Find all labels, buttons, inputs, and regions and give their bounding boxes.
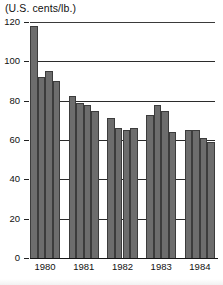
x-axis-tick-label: 1982 (112, 261, 133, 272)
y-axis-tick-mark (24, 101, 29, 102)
bar (69, 96, 77, 258)
y-axis-tick-label: 20 (0, 213, 20, 224)
bar (53, 81, 61, 258)
y-axis-tick-mark (24, 22, 29, 23)
bar (84, 105, 92, 258)
gridline (30, 61, 215, 62)
y-axis-tick-mark (24, 179, 29, 180)
x-axis-tick-label: 1980 (35, 261, 56, 272)
bar (192, 130, 200, 258)
bar (200, 138, 208, 258)
y-axis-tick-mark (24, 219, 29, 220)
bar (154, 105, 162, 258)
y-axis-tick-label: 40 (0, 173, 20, 184)
bar (123, 130, 131, 258)
bar (115, 128, 123, 258)
y-axis-tick-mark (24, 61, 29, 62)
y-axis-tick-mark (24, 140, 29, 141)
bar (91, 111, 99, 259)
bar (130, 128, 138, 258)
gridline (30, 22, 215, 23)
bar (38, 77, 46, 258)
bar (45, 71, 53, 258)
bar (161, 111, 169, 258)
chart-container: (U.S. cents/lb.) 02040608010012019801981… (0, 0, 223, 285)
y-axis-tick-label: 120 (0, 16, 20, 27)
y-axis-tick-label: 80 (0, 95, 20, 106)
bar (185, 130, 193, 258)
y-axis-tick-label: 60 (0, 134, 20, 145)
bar (169, 132, 177, 258)
bar (146, 115, 154, 258)
plot-area: 02040608010012019801981198219831984 (30, 22, 215, 258)
bar (107, 118, 115, 258)
x-axis-tick-label: 1981 (73, 261, 94, 272)
x-axis-baseline (30, 258, 218, 259)
bar (30, 26, 38, 258)
page-edge-shading (0, 279, 223, 285)
x-axis-tick-label: 1983 (151, 261, 172, 272)
y-axis-tick-mark (24, 258, 29, 259)
y-axis-tick-label: 0 (0, 252, 20, 263)
y-axis-tick-label: 100 (0, 55, 20, 66)
bar (76, 103, 84, 258)
x-axis-tick-label: 1984 (189, 261, 210, 272)
bar (207, 142, 215, 258)
axis-unit-caption: (U.S. cents/lb.) (5, 2, 76, 14)
